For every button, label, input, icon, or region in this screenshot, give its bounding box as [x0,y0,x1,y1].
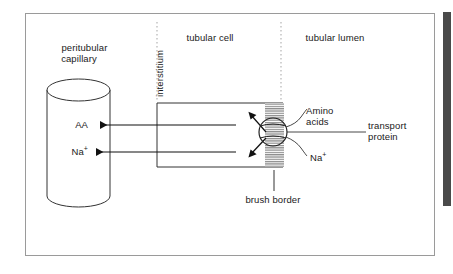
label-tubular-lumen: tubular lumen [292,32,378,43]
figure-root: peritubularcapillary interstitium tubula… [0,0,453,274]
label-transport-protein-line2: protein [368,131,398,142]
sodium-charge-right: + [322,151,326,158]
label-brush-border: brush border [218,194,328,205]
arrow-na-out-of-carrier [248,138,266,157]
peritubular-capillary-cylinder [47,79,110,207]
label-amino-acids-lumen-line1: Amino [306,105,333,116]
leader-sodium-right [286,137,307,156]
label-tubular-cell: tubular cell [170,32,250,43]
label-peritubular-capillary-line1: peritubularcapillary [61,42,107,64]
label-sodium-lumen: Na+ [310,152,340,163]
label-peritubular-capillary: peritubularcapillary [35,31,123,75]
label-sodium-lumen-text: Na [310,152,322,163]
brush-border-band [265,103,284,167]
sodium-charge-left: + [84,145,88,152]
label-transport-protein: transportprotein [368,120,432,142]
label-sodium-capillary: Na+ [56,146,88,157]
label-sodium-capillary-text: Na [71,146,83,157]
tubular-cell-box [157,103,283,167]
leader-amino-acids [286,109,307,127]
label-transport-protein-line1: transport [368,120,406,131]
label-amino-acids-capillary: AA [62,119,88,130]
label-amino-acids-lumen: Aminoacids [306,105,354,127]
label-interstitium: interstitium [154,34,165,114]
label-amino-acids-lumen-line2: acids [306,116,329,127]
